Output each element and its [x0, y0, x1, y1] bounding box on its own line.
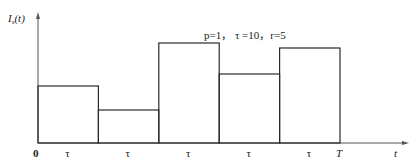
x-axis-arrow-icon [402, 141, 409, 145]
y-axis-arrow-icon [36, 12, 40, 19]
bars [38, 43, 340, 143]
tau-tick-label: τ [186, 147, 191, 159]
x-axis-label: t [394, 147, 398, 159]
tick-labels: τττττ [65, 147, 312, 159]
step-bar [280, 48, 340, 143]
step-bar [219, 74, 279, 143]
y-axis-label: Is(t) [7, 12, 25, 26]
step-chart: τττττ Is(t) p=1， τ =10，r=5 0 T t [0, 0, 418, 165]
tau-tick-label: τ [126, 147, 131, 159]
end-label-T: T [336, 147, 343, 159]
step-bar [159, 43, 219, 143]
tau-tick-label: τ [307, 147, 312, 159]
origin-label: 0 [33, 147, 39, 159]
tau-tick-label: τ [65, 147, 70, 159]
tau-tick-label: τ [246, 147, 251, 159]
step-bar [98, 110, 158, 143]
parameter-annotation: p=1， τ =10，r=5 [204, 29, 286, 41]
step-bar [38, 86, 98, 143]
